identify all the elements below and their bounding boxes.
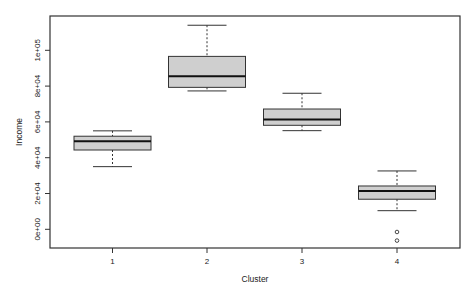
y-tick-label: 2e+04	[33, 182, 42, 205]
iqr-box	[74, 136, 151, 150]
plot-frame	[50, 16, 460, 248]
box-cluster-3	[264, 93, 341, 130]
box-cluster-1	[74, 131, 151, 167]
x-tick-label: 4	[395, 257, 400, 266]
outlier-point	[395, 239, 399, 243]
y-tick-label: 0e+00	[33, 218, 42, 241]
x-tick-label: 3	[300, 257, 305, 266]
x-axis-title: Cluster	[242, 274, 269, 284]
iqr-box	[169, 56, 246, 87]
x-tick-label: 2	[205, 257, 210, 266]
y-tick-label: 8e+04	[33, 74, 42, 97]
y-axis-title: Income	[14, 118, 24, 146]
box-cluster-4	[359, 171, 436, 242]
boxes-layer	[74, 25, 436, 242]
y-tick-label: 6e+04	[33, 110, 42, 133]
box-cluster-2	[169, 25, 246, 91]
outlier-point	[395, 230, 399, 234]
x-axis: 1234	[110, 248, 400, 266]
y-axis: 0e+002e+044e+046e+048e+041e+05	[33, 39, 50, 241]
iqr-box	[359, 186, 436, 199]
boxplot-chart: 0e+002e+044e+046e+048e+041e+05 1234 Clus…	[0, 0, 476, 297]
y-tick-label: 1e+05	[33, 39, 42, 62]
y-tick-label: 4e+04	[33, 146, 42, 169]
x-tick-label: 1	[110, 257, 115, 266]
iqr-box	[264, 109, 341, 125]
